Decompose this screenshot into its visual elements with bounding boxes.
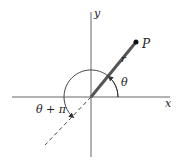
y-axis-label: y [94, 8, 100, 19]
point-label: P [142, 38, 150, 50]
radius-label: r [121, 54, 126, 64]
point-p [134, 40, 139, 45]
diagram-graphic [0, 0, 181, 168]
theta-arc [109, 77, 119, 98]
opposite-angle-label: θ + π [36, 104, 66, 115]
angle-label: θ [121, 77, 128, 88]
polar-diagram: y x P r θ θ + π [0, 0, 181, 168]
radius-ray [91, 42, 136, 97]
x-axis-label: x [165, 98, 171, 109]
